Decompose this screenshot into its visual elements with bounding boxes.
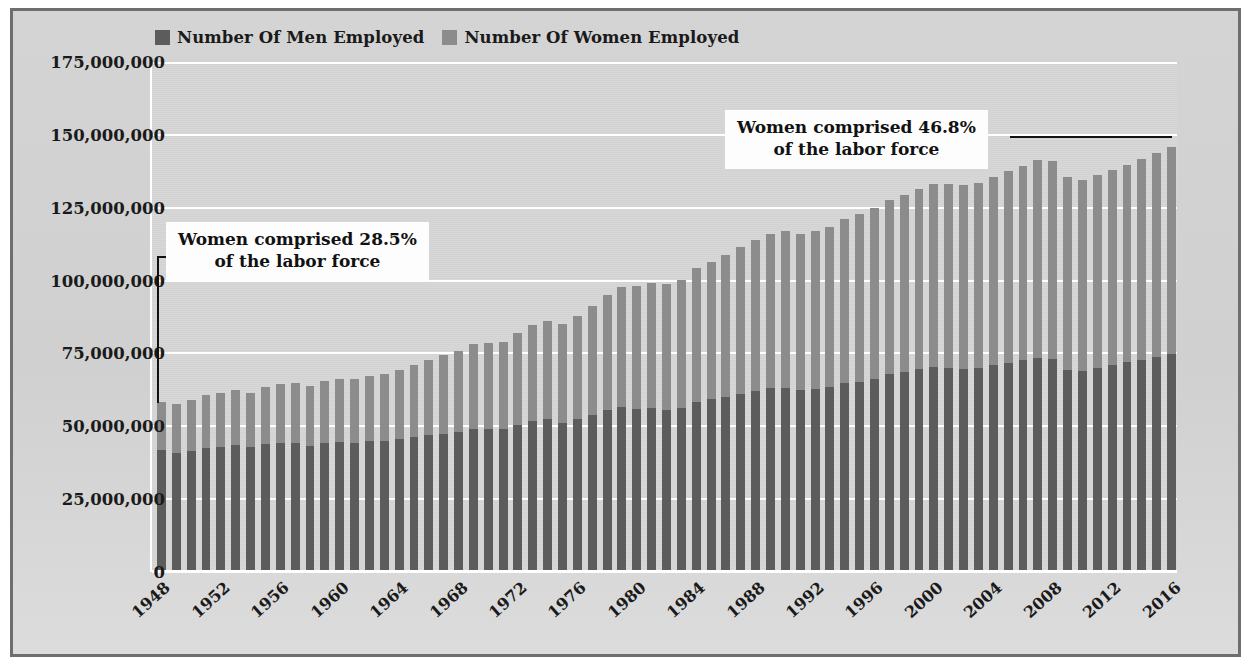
table-row — [424, 360, 433, 572]
bar-segment-men — [617, 407, 626, 572]
bar-segment-women — [202, 395, 211, 448]
table-row — [528, 325, 537, 572]
bar-segment-men — [1063, 370, 1072, 572]
table-row — [870, 208, 879, 572]
bar-segment-men — [1108, 365, 1117, 572]
bar-segment-men — [1152, 357, 1161, 572]
bar-series-group — [152, 62, 1177, 572]
bar-segment-women — [1063, 177, 1072, 370]
bar-segment-women — [707, 262, 716, 400]
y-axis-tick-label: 175,000,000 — [25, 53, 165, 72]
table-row — [617, 287, 626, 572]
table-row — [989, 177, 998, 572]
table-row — [1004, 171, 1013, 572]
table-row — [632, 286, 641, 572]
bar-segment-men — [1093, 368, 1102, 572]
bar-segment-men — [261, 444, 270, 572]
bar-segment-women — [855, 214, 864, 382]
bar-segment-women — [588, 306, 597, 415]
annotation-leader-horizontal-last — [1010, 136, 1172, 138]
bar-segment-men — [677, 408, 686, 572]
bar-segment-women — [424, 360, 433, 435]
legend-entry-women: Number Of Women Employed — [442, 28, 739, 47]
table-row — [484, 343, 493, 572]
bar-segment-women — [603, 295, 612, 410]
bar-segment-women — [320, 381, 329, 443]
bar-segment-men — [811, 389, 820, 572]
plot-area — [150, 62, 1177, 572]
bar-segment-men — [380, 441, 389, 572]
table-row — [231, 390, 240, 572]
bar-segment-women — [1152, 153, 1161, 357]
bar-segment-men — [974, 368, 983, 572]
table-row — [603, 295, 612, 572]
bar-segment-women — [410, 365, 419, 437]
table-row — [320, 381, 329, 572]
table-row — [915, 189, 924, 572]
table-row — [796, 234, 805, 572]
table-row — [1152, 153, 1161, 572]
bar-segment-women — [1093, 175, 1102, 368]
bar-segment-men — [306, 446, 315, 572]
table-row — [558, 324, 567, 572]
bar-segment-women — [1078, 180, 1087, 371]
bar-segment-men — [870, 379, 879, 572]
bar-segment-men — [291, 443, 300, 572]
bar-segment-men — [603, 410, 612, 572]
bar-segment-men — [157, 450, 166, 572]
bar-segment-men — [959, 369, 968, 572]
bar-segment-women — [335, 379, 344, 443]
bar-segment-women — [291, 383, 300, 443]
table-row — [335, 379, 344, 573]
bar-segment-women — [276, 384, 285, 443]
table-row — [469, 344, 478, 572]
table-row — [276, 384, 285, 572]
table-row — [380, 374, 389, 572]
y-axis-tick-label: 0 — [25, 563, 165, 582]
bar-segment-women — [513, 333, 522, 424]
y-axis-tick-label: 125,000,000 — [25, 198, 165, 217]
table-row — [395, 370, 404, 572]
bar-segment-men — [989, 365, 998, 572]
table-row — [513, 333, 522, 572]
bar-segment-men — [647, 408, 656, 572]
bar-segment-men — [246, 447, 255, 572]
y-axis-tick-label: 25,000,000 — [25, 490, 165, 509]
table-row — [573, 316, 582, 572]
bar-segment-women — [439, 355, 448, 433]
bar-segment-men — [1004, 363, 1013, 572]
bar-segment-men — [424, 435, 433, 572]
bar-segment-women — [900, 195, 909, 372]
table-row — [365, 376, 374, 572]
bar-segment-women — [1004, 171, 1013, 362]
table-row — [751, 240, 760, 572]
bar-segment-women — [915, 189, 924, 370]
table-row — [216, 393, 225, 572]
table-row — [840, 219, 849, 573]
y-axis-tick-label: 100,000,000 — [25, 271, 165, 290]
table-row — [350, 379, 359, 573]
table-row — [291, 383, 300, 572]
bar-segment-women — [216, 393, 225, 447]
bar-segment-men — [944, 368, 953, 572]
table-row — [1108, 170, 1117, 572]
table-row — [1167, 147, 1176, 572]
bar-segment-women — [543, 321, 552, 420]
annotation-box-first-year: Women comprised 28.5%of the labor force — [166, 222, 429, 281]
bar-segment-women — [662, 284, 671, 410]
bar-segment-women — [454, 351, 463, 432]
bar-segment-women — [870, 208, 879, 378]
table-row — [707, 262, 716, 572]
table-row — [202, 395, 211, 572]
bar-segment-men — [1123, 362, 1132, 572]
bar-segment-women — [751, 240, 760, 391]
bar-segment-women — [1033, 160, 1042, 358]
bar-segment-women — [811, 231, 820, 389]
bar-segment-women — [484, 343, 493, 430]
bar-segment-women — [989, 177, 998, 366]
bar-segment-men — [1078, 371, 1087, 572]
bar-segment-women — [766, 234, 775, 388]
annotation-box-last-year: Women comprised 46.8%of the labor force — [725, 110, 988, 169]
bar-segment-women — [187, 400, 196, 450]
bar-segment-women — [825, 227, 834, 387]
